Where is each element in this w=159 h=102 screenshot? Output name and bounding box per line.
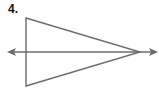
geometry-figure xyxy=(0,0,159,102)
